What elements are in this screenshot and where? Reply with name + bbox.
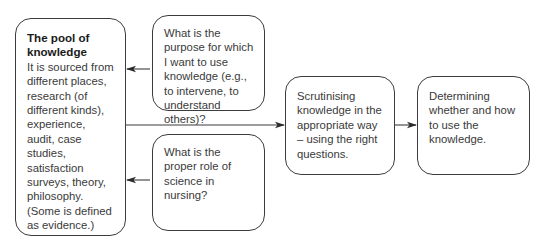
node-pool-of-knowledge: The pool of knowledge It is sourced from… [15, 18, 126, 236]
node-text: It is sourced from different places, res… [27, 60, 116, 233]
node-purpose-question: What is the purpose for which I want to … [152, 15, 265, 111]
node-text: Scrutinising knowledge in the appropriat… [297, 89, 385, 161]
node-text: Determining whether and how to use the k… [429, 89, 520, 147]
node-text: What is the proper role of science in nu… [164, 145, 255, 203]
node-scrutinising-knowledge: Scrutinising knowledge in the appropriat… [285, 76, 395, 175]
node-science-role-question: What is the proper role of science in nu… [152, 134, 265, 231]
node-text: What is the purpose for which I want to … [164, 26, 255, 127]
node-determining-use: Determining whether and how to use the k… [417, 76, 530, 175]
node-title: The pool of knowledge [27, 31, 116, 60]
